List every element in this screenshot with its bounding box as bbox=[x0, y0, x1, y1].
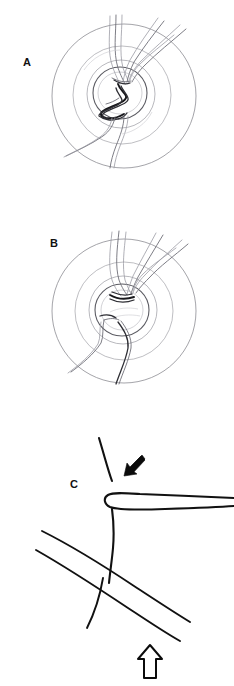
black-arrow bbox=[124, 455, 145, 476]
vertical-vessel-mid bbox=[112, 509, 114, 548]
vessel-inferior-nasal-edge bbox=[119, 321, 131, 384]
fundus-b bbox=[52, 231, 196, 384]
panel-c: C bbox=[0, 410, 234, 686]
optic-cup bbox=[101, 290, 143, 330]
vessel-superior-2-edge bbox=[127, 233, 156, 294]
panel-b: B bbox=[0, 225, 234, 410]
panel-c-illustration: C bbox=[0, 410, 234, 686]
diagonal-vessel-lower-edge bbox=[36, 550, 180, 641]
vessel-superior-1 bbox=[115, 15, 125, 84]
diagonal-vessel-upper-edge bbox=[42, 531, 190, 622]
fundus-outer-circle bbox=[52, 24, 196, 168]
panel-a-illustration: A bbox=[0, 0, 234, 225]
panel-b-label: B bbox=[50, 237, 58, 249]
vertical-vessel-lower bbox=[109, 548, 113, 583]
nasal-vessel-stump-edge bbox=[104, 319, 119, 321]
crossing-vessel-loop bbox=[105, 493, 234, 510]
cup-shading-1 bbox=[110, 308, 138, 312]
vessel-inferior-temporal bbox=[66, 117, 115, 156]
flattened-vessel-band bbox=[110, 295, 134, 299]
schematic-vessels bbox=[36, 438, 234, 678]
vessel-inferior-temporal-edge bbox=[68, 322, 101, 373]
vessel-superior-3 bbox=[136, 244, 188, 293]
white-arrow bbox=[138, 645, 162, 678]
vessel-superior-2 bbox=[131, 235, 163, 294]
vessel-superior-3-edge bbox=[133, 240, 182, 293]
optic-cup bbox=[98, 72, 142, 114]
flattened-vessel-band-upper bbox=[112, 292, 132, 295]
panel-b-illustration: B bbox=[0, 225, 234, 410]
fundus-inner-ring bbox=[89, 276, 157, 344]
fundus-a bbox=[52, 15, 196, 168]
vessel-inferior-nasal-edge bbox=[114, 116, 128, 168]
panel-c-label: C bbox=[70, 478, 78, 490]
white-arrow-head bbox=[138, 645, 162, 678]
vessel-superior-3 bbox=[132, 29, 186, 82]
figure-container: A bbox=[0, 0, 234, 686]
vessel-superior-4 bbox=[133, 248, 176, 291]
optic-disc bbox=[93, 67, 147, 119]
vertical-vessel-upper bbox=[99, 438, 112, 481]
panel-a-label: A bbox=[23, 56, 31, 68]
tortuous-vessel-hairline bbox=[106, 98, 119, 104]
panel-a: A bbox=[0, 0, 234, 225]
black-arrow-shaft bbox=[128, 456, 145, 474]
